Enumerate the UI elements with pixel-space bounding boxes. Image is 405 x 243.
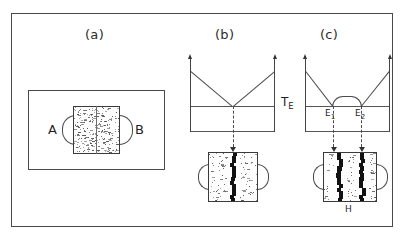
stipple-dot xyxy=(117,108,120,109)
stipple-dot xyxy=(243,167,244,168)
stipple-dot xyxy=(349,160,350,161)
stipple-dot xyxy=(256,184,257,185)
stipple-dot xyxy=(109,150,110,151)
panel-caption-c: (c) xyxy=(320,27,338,42)
stipple-dot xyxy=(327,191,328,192)
stipple-dot xyxy=(326,189,327,190)
stipple-dot xyxy=(80,117,81,118)
stipple-dot xyxy=(105,125,106,126)
stipple-dot xyxy=(79,110,80,111)
stipple-dot xyxy=(222,175,223,176)
stipple-dot xyxy=(94,110,95,111)
stipple-dot xyxy=(113,150,114,151)
stipple-dot xyxy=(241,163,242,164)
stipple-dot xyxy=(99,146,100,147)
stipple-dot xyxy=(371,164,372,165)
reaction-band-segment xyxy=(231,198,235,202)
stipple-dot xyxy=(115,151,116,152)
stipple-dot xyxy=(117,137,119,138)
stipple-dot xyxy=(324,189,325,190)
stipple-dot xyxy=(105,144,106,145)
stipple-dot xyxy=(107,125,108,126)
stipple-dot xyxy=(83,110,84,111)
stipple-dot xyxy=(109,119,112,120)
stipple-dot xyxy=(213,157,214,158)
stipple-dot xyxy=(353,155,356,156)
stipple-dot xyxy=(350,157,351,158)
stipple-dot xyxy=(109,144,110,145)
stipple-dot xyxy=(92,108,93,109)
figure-container: (a) (b) (c) A B TE E1 E2 xyxy=(0,0,405,243)
stipple-dot xyxy=(85,131,86,132)
stipple-dot xyxy=(218,193,220,194)
stipple-dot xyxy=(97,135,98,136)
panel-b-left-axis-arrow-icon xyxy=(188,54,192,59)
stipple-dot xyxy=(98,111,99,112)
stipple-dot xyxy=(224,184,225,185)
stipple-dot xyxy=(217,201,218,202)
stipple-dot xyxy=(370,154,373,155)
stipple-dot xyxy=(225,165,226,166)
stipple-dot xyxy=(348,191,349,192)
stipple-dot xyxy=(328,199,329,200)
stipple-dot xyxy=(212,156,213,157)
panel-b-right-axis-arrow-icon xyxy=(273,54,277,59)
stipple-dot xyxy=(212,177,215,178)
stipple-dot xyxy=(213,165,214,166)
stipple-dot xyxy=(220,188,221,189)
stipple-dot xyxy=(372,191,375,192)
stipple-dot xyxy=(107,141,108,142)
stipple-dot xyxy=(242,190,245,191)
stipple-dot xyxy=(348,196,349,197)
stipple-dot xyxy=(118,129,120,130)
stipple-dot xyxy=(80,148,81,149)
panel-b-projection-line xyxy=(233,106,234,147)
stipple-dot xyxy=(224,190,225,191)
stipple-dot xyxy=(369,188,371,189)
stipple-dot xyxy=(80,113,81,114)
stipple-dot xyxy=(81,138,82,139)
stipple-dot xyxy=(220,196,221,197)
stipple-dot xyxy=(115,129,116,130)
stipple-dot xyxy=(257,158,258,159)
panel-c-intermediate-phase-dome xyxy=(332,96,362,107)
stipple-dot xyxy=(329,164,330,165)
stipple-dot xyxy=(75,110,76,111)
stipple-dot xyxy=(350,167,352,168)
stipple-dot xyxy=(74,109,75,110)
stipple-dot xyxy=(103,108,104,109)
stipple-dot xyxy=(251,163,252,164)
stipple-dot xyxy=(118,126,120,127)
panel-c-phase-diagram: E1 E2 xyxy=(305,44,390,134)
stipple-dot xyxy=(221,161,222,162)
stipple-dot xyxy=(111,133,114,134)
stipple-dot xyxy=(107,128,110,129)
stipple-dot xyxy=(351,192,352,193)
stipple-dot xyxy=(245,174,246,175)
stipple-dot xyxy=(240,158,241,159)
stipple-dot xyxy=(347,178,348,179)
stipple-dot xyxy=(226,158,227,159)
stipple-dot xyxy=(84,138,86,139)
stipple-dot xyxy=(216,153,217,154)
stipple-dot xyxy=(214,180,215,181)
panel-caption-b: (b) xyxy=(215,27,234,42)
stipple-dot xyxy=(108,120,109,121)
panel-b-left-axis xyxy=(190,58,191,132)
stipple-dot xyxy=(87,114,88,115)
stipple-dot xyxy=(79,151,80,152)
stipple-dot xyxy=(375,200,376,201)
stipple-dot xyxy=(119,117,120,118)
stipple-dot xyxy=(117,150,120,151)
stipple-dot xyxy=(349,189,350,190)
stipple-dot xyxy=(371,198,372,199)
stipple-dot xyxy=(375,185,376,186)
stipple-dot xyxy=(220,179,223,180)
stipple-dot xyxy=(77,144,78,145)
stipple-dot xyxy=(75,124,76,125)
stipple-dot xyxy=(112,135,113,136)
stipple-dot xyxy=(92,122,93,123)
stipple-dot xyxy=(90,153,91,154)
stipple-dot xyxy=(92,139,93,140)
stipple-dot xyxy=(252,193,253,194)
